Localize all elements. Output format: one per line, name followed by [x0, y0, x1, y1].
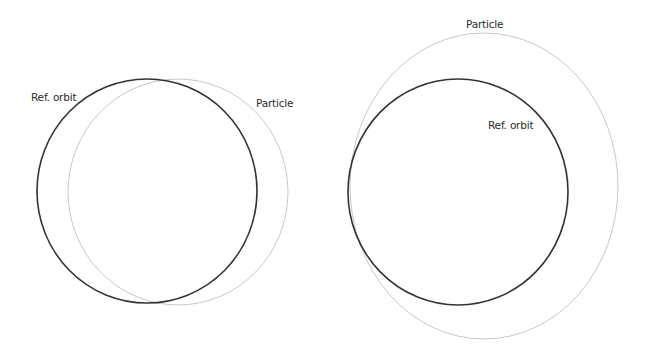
reference-orbit-left: [37, 79, 257, 303]
particle-label-left: Particle: [256, 97, 293, 109]
orbit-diagram: Ref. orbit Particle Particle Ref. orbit: [0, 0, 648, 350]
reference-orbit-right: [348, 79, 568, 305]
ref-orbit-label-left: Ref. orbit: [31, 91, 76, 103]
right-panel: Particle Ref. orbit: [348, 18, 618, 339]
left-panel: Ref. orbit Particle: [31, 79, 293, 305]
particle-label-right: Particle: [466, 18, 503, 30]
ref-orbit-label-right: Ref. orbit: [488, 119, 533, 131]
particle-orbit-left: [68, 79, 288, 305]
particle-orbit-right: [350, 33, 618, 339]
